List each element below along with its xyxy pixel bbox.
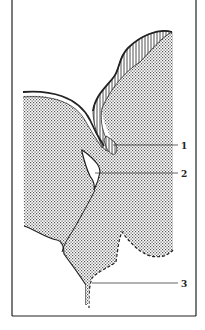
label-2: 2: [181, 169, 187, 179]
label-1: 1: [181, 141, 187, 151]
stalk: [86, 284, 89, 304]
diagram-canvas: 1 2 3: [0, 0, 205, 330]
label-3: 3: [181, 279, 187, 289]
